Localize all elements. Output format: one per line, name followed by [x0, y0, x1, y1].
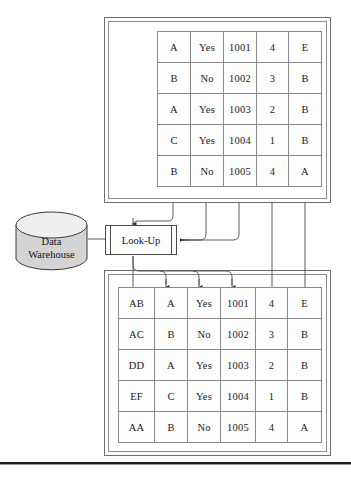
cell: AA [119, 412, 155, 443]
cell: AB [119, 288, 155, 319]
cylinder-icon [15, 211, 88, 273]
cell: Yes [191, 125, 224, 156]
source-col3-to-lookup-path [183, 203, 239, 240]
cell: 1004 [224, 125, 257, 156]
cell: 1001 [221, 288, 256, 319]
table-row: A Yes 1001 4 E [158, 32, 322, 63]
source-col1-to-lookup-path [133, 203, 173, 226]
cell: C [155, 381, 188, 412]
diagram-canvas: A Yes 1001 4 E B No 1002 3 B A Yes 1003 … [0, 0, 351, 480]
cell: Yes [188, 350, 221, 381]
cell: 4 [257, 156, 289, 187]
source-col2-to-lookup-path [183, 203, 206, 240]
cell: A [155, 288, 188, 319]
cell: 1 [257, 125, 289, 156]
lookup-process-box: Look-Up [105, 225, 177, 255]
cell: B [158, 156, 191, 187]
lookup-label: Look-Up [106, 226, 176, 254]
table-row: EF C Yes 1004 1 B [119, 381, 322, 412]
cell: 1 [256, 381, 288, 412]
cell: B [155, 412, 188, 443]
cell: B [158, 63, 191, 94]
cell: 3 [256, 319, 288, 350]
cell: A [158, 32, 191, 63]
lookup-branch-col3-path [193, 271, 199, 285]
cell: No [191, 63, 224, 94]
table-row: B No 1005 4 A [158, 156, 322, 187]
cell: A [155, 350, 188, 381]
bottom-divider-rule [0, 462, 351, 465]
cell: A [289, 156, 322, 187]
cell: AC [119, 319, 155, 350]
cell: Yes [188, 381, 221, 412]
cell: No [188, 319, 221, 350]
cell: 2 [257, 94, 289, 125]
cell: A [158, 94, 191, 125]
cell: B [155, 319, 188, 350]
cell: 1005 [224, 156, 257, 187]
cell: E [288, 288, 322, 319]
cell: B [288, 319, 322, 350]
cell: 1003 [221, 350, 256, 381]
lookup-branch-col2-path [160, 271, 166, 285]
cell: C [158, 125, 191, 156]
table-row: A Yes 1003 2 B [158, 94, 322, 125]
source-records-table: A Yes 1001 4 E B No 1002 3 B A Yes 1003 … [157, 31, 322, 187]
cell: B [288, 350, 322, 381]
target-records-table: AB A Yes 1001 4 E AC B No 1002 3 B DD A … [118, 287, 322, 443]
table-row: C Yes 1004 1 B [158, 125, 322, 156]
cell: E [289, 32, 322, 63]
cell: 2 [256, 350, 288, 381]
table-row: DD A Yes 1003 2 B [119, 350, 322, 381]
data-warehouse-cylinder: Data Warehouse [15, 211, 88, 273]
cell: B [289, 125, 322, 156]
cell: Yes [188, 288, 221, 319]
cell: B [289, 94, 322, 125]
cell: Yes [191, 32, 224, 63]
cell: No [191, 156, 224, 187]
cell: DD [119, 350, 155, 381]
cell: 1004 [221, 381, 256, 412]
cell: 1002 [221, 319, 256, 350]
cell: 4 [256, 288, 288, 319]
lookup-branch-col4-path [226, 271, 232, 285]
cell: No [188, 412, 221, 443]
table-row: B No 1002 3 B [158, 63, 322, 94]
cell: Yes [191, 94, 224, 125]
cell: B [288, 381, 322, 412]
cell: 3 [257, 63, 289, 94]
table-row: AC B No 1002 3 B [119, 319, 322, 350]
cell: 1001 [224, 32, 257, 63]
table-row: AA B No 1005 4 A [119, 412, 322, 443]
table-row: AB A Yes 1001 4 E [119, 288, 322, 319]
cell: A [288, 412, 322, 443]
cell: 1003 [224, 94, 257, 125]
cell: EF [119, 381, 155, 412]
cell: 1002 [224, 63, 257, 94]
cell: B [289, 63, 322, 94]
cell: 4 [257, 32, 289, 63]
cell: 1005 [221, 412, 256, 443]
lookup-output-bus-line [133, 256, 226, 271]
cell: 4 [256, 412, 288, 443]
